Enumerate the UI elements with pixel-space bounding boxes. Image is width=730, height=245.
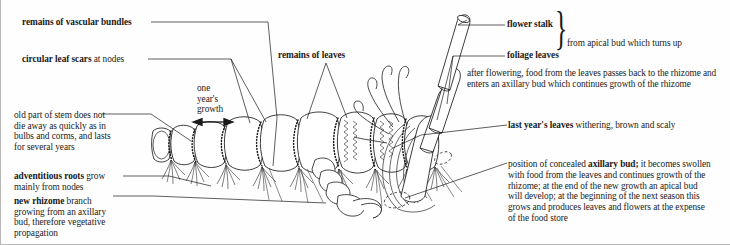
figure-canvas: remains of vascular bundles circular lea… <box>0 0 730 245</box>
label-circular-leaf-scars: circular leaf scars at nodes <box>22 54 124 65</box>
label-adventitious-roots: adventitious roots grow mainly from node… <box>14 171 105 192</box>
label-remains-of-vascular-bundles: remains of vascular bundles <box>22 17 132 28</box>
paragraph-axillary-bud-pre: position of concealed <box>508 159 588 169</box>
label-old-part-of-stem: old part of stem does not die away as qu… <box>14 110 111 152</box>
label-circular-leaf-scars-bold: circular leaf scars <box>22 54 91 64</box>
label-circular-leaf-scars-rest: at nodes <box>91 54 124 64</box>
label-new-rhizome-bold: new rhizome <box>14 196 64 206</box>
label-last-years-leaves-bold: last year's leaves <box>508 120 573 130</box>
label-adventitious-roots-bold: adventitious roots <box>14 171 84 181</box>
label-last-years-leaves: last year's leaves withering, brown and … <box>508 120 675 131</box>
paragraph-axillary-bud-bold: axillary bud; <box>588 159 638 169</box>
brace-icon: } <box>555 6 567 52</box>
label-remains-of-leaves: remains of leaves <box>278 50 345 61</box>
label-flower-stalk: flower stalk <box>507 19 553 30</box>
label-last-years-leaves-rest: withering, brown and scaly <box>573 120 675 130</box>
label-one-years-growth: one year's growth <box>197 83 223 115</box>
paragraph-axillary-bud: position of concealed axillary bud; it b… <box>508 159 730 224</box>
paragraph-after-flowering: after flowering, food from the leaves pa… <box>467 68 729 90</box>
label-brace-note: from apical bud which turns up <box>567 38 682 49</box>
label-new-rhizome: new rhizome branch growing from an axill… <box>14 196 106 238</box>
label-foliage-leaves: foliage leaves <box>507 50 559 61</box>
